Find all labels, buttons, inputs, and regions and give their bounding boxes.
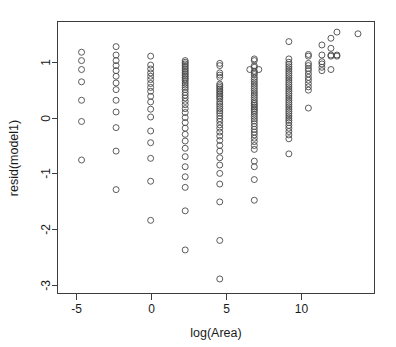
- y-tick-label: -3: [39, 280, 53, 291]
- x-tick-label: 10: [295, 302, 309, 316]
- scatter-plot-figure: -50510 10-1-2-3 log(Area) resid(model1): [0, 0, 396, 347]
- x-axis-title: log(Area): [190, 326, 241, 340]
- y-tick-label: 0: [39, 115, 53, 122]
- y-axis-title: resid(model1): [7, 120, 21, 196]
- x-tick-label: 5: [223, 302, 230, 316]
- y-tick-label: -2: [39, 224, 53, 235]
- y-tick-label: -1: [39, 168, 53, 179]
- x-tick-label: 0: [148, 302, 155, 316]
- x-tick-label: -5: [71, 302, 82, 316]
- plot-canvas: -50510 10-1-2-3 log(Area) resid(model1): [0, 0, 396, 347]
- y-tick-label: 1: [39, 59, 53, 66]
